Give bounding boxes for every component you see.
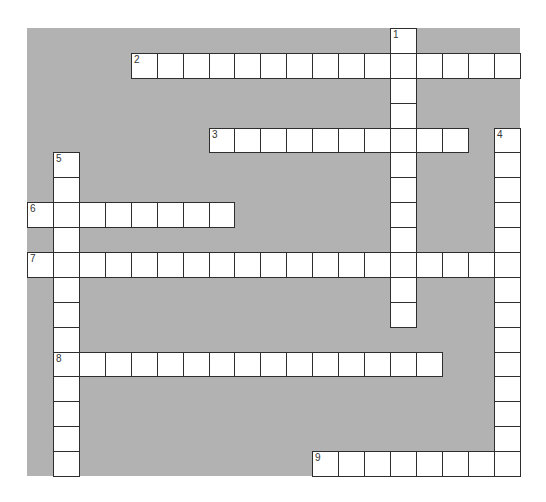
crossword-cell[interactable]: [390, 277, 417, 303]
crossword-cell[interactable]: [390, 103, 417, 129]
crossword-cell[interactable]: [286, 352, 313, 377]
crossword-cell[interactable]: 2: [131, 53, 158, 79]
crossword-cell[interactable]: [131, 202, 158, 228]
crossword-cell[interactable]: [338, 53, 365, 79]
crossword-cell[interactable]: [260, 252, 287, 278]
crossword-cell[interactable]: [53, 177, 80, 203]
crossword-cell[interactable]: [494, 401, 521, 427]
crossword-cell[interactable]: [105, 252, 132, 278]
crossword-cell[interactable]: 3: [209, 128, 235, 153]
crossword-cell[interactable]: [416, 352, 443, 377]
crossword-cell[interactable]: [494, 252, 521, 278]
crossword-cell[interactable]: [390, 53, 417, 79]
crossword-cell[interactable]: [494, 352, 521, 377]
crossword-cell[interactable]: [468, 53, 495, 79]
crossword-cell[interactable]: [105, 352, 132, 377]
crossword-cell[interactable]: [157, 352, 184, 377]
crossword-cell[interactable]: [364, 128, 391, 153]
crossword-cell[interactable]: [131, 352, 158, 377]
crossword-cell[interactable]: [260, 128, 287, 153]
crossword-cell[interactable]: [183, 202, 210, 228]
crossword-cell[interactable]: [209, 202, 235, 228]
crossword-cell[interactable]: [234, 53, 261, 79]
crossword-cell[interactable]: [494, 227, 521, 253]
crossword-cell[interactable]: [79, 352, 106, 377]
crossword-cell[interactable]: [53, 227, 80, 253]
crossword-cell[interactable]: [494, 302, 521, 328]
crossword-cell[interactable]: [131, 252, 158, 278]
crossword-cell[interactable]: 6: [27, 202, 54, 228]
crossword-cell[interactable]: [494, 202, 521, 228]
crossword-cell[interactable]: [312, 252, 339, 278]
crossword-cell[interactable]: [53, 252, 80, 278]
crossword-cell[interactable]: [390, 202, 417, 228]
crossword-cell[interactable]: 9: [312, 451, 339, 477]
crossword-cell[interactable]: [494, 426, 521, 452]
crossword-cell[interactable]: [53, 426, 80, 452]
crossword-cell[interactable]: [364, 252, 391, 278]
crossword-cell[interactable]: [468, 451, 495, 477]
crossword-cell[interactable]: [390, 78, 417, 104]
crossword-cell[interactable]: [209, 252, 235, 278]
crossword-cell[interactable]: [390, 451, 417, 477]
crossword-cell[interactable]: [494, 277, 521, 303]
crossword-cell[interactable]: [105, 202, 132, 228]
crossword-cell[interactable]: [442, 128, 469, 153]
crossword-cell[interactable]: [260, 352, 287, 377]
crossword-cell[interactable]: 1: [390, 28, 417, 54]
crossword-cell[interactable]: [364, 451, 391, 477]
crossword-cell[interactable]: [234, 252, 261, 278]
crossword-cell[interactable]: [183, 252, 210, 278]
crossword-cell[interactable]: [209, 352, 235, 377]
crossword-cell[interactable]: [494, 152, 521, 178]
crossword-cell[interactable]: [338, 252, 365, 278]
crossword-cell[interactable]: [183, 352, 210, 377]
crossword-cell[interactable]: [234, 128, 261, 153]
crossword-cell[interactable]: [390, 302, 417, 328]
crossword-cell[interactable]: [338, 352, 365, 377]
crossword-cell[interactable]: [416, 53, 443, 79]
crossword-cell[interactable]: [494, 53, 521, 79]
crossword-cell[interactable]: [390, 352, 417, 377]
crossword-cell[interactable]: [286, 252, 313, 278]
crossword-cell[interactable]: [416, 128, 443, 153]
crossword-cell[interactable]: 5: [53, 152, 80, 178]
crossword-cell[interactable]: [416, 451, 443, 477]
crossword-cell[interactable]: [312, 352, 339, 377]
crossword-cell[interactable]: [157, 252, 184, 278]
crossword-cell[interactable]: [442, 53, 469, 79]
crossword-cell[interactable]: [183, 53, 210, 79]
crossword-cell[interactable]: [494, 376, 521, 402]
crossword-cell[interactable]: [157, 53, 184, 79]
crossword-cell[interactable]: [53, 451, 80, 477]
crossword-cell[interactable]: [260, 53, 287, 79]
crossword-cell[interactable]: [286, 53, 313, 79]
crossword-cell[interactable]: [53, 302, 80, 328]
crossword-cell[interactable]: [53, 327, 80, 353]
crossword-cell[interactable]: [364, 53, 391, 79]
crossword-cell[interactable]: [442, 252, 469, 278]
crossword-cell[interactable]: [234, 352, 261, 377]
crossword-cell[interactable]: 4: [494, 128, 521, 153]
crossword-cell[interactable]: [53, 376, 80, 402]
crossword-cell[interactable]: 8: [53, 352, 80, 377]
crossword-cell[interactable]: [390, 252, 417, 278]
crossword-cell[interactable]: [390, 177, 417, 203]
crossword-cell[interactable]: [338, 451, 365, 477]
crossword-cell[interactable]: [364, 352, 391, 377]
crossword-cell[interactable]: [390, 128, 417, 153]
crossword-cell[interactable]: [209, 53, 235, 79]
crossword-cell[interactable]: [494, 327, 521, 353]
crossword-cell[interactable]: [390, 152, 417, 178]
crossword-cell[interactable]: [338, 128, 365, 153]
crossword-cell[interactable]: [79, 252, 106, 278]
crossword-cell[interactable]: [390, 227, 417, 253]
crossword-cell[interactable]: 7: [27, 252, 54, 278]
crossword-cell[interactable]: [312, 53, 339, 79]
crossword-cell[interactable]: [53, 277, 80, 303]
crossword-cell[interactable]: [157, 202, 184, 228]
crossword-cell[interactable]: [79, 202, 106, 228]
crossword-cell[interactable]: [468, 252, 495, 278]
crossword-cell[interactable]: [312, 128, 339, 153]
crossword-cell[interactable]: [494, 177, 521, 203]
